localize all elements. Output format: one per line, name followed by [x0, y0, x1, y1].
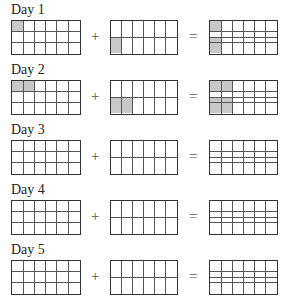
plus-sign: + [91, 208, 99, 224]
left-fraction-grid [11, 140, 81, 175]
grid-column-line [56, 261, 57, 294]
day-row: Day 5+= [0, 242, 284, 301]
grid-column-line [34, 141, 35, 174]
day-row: Day 4+= [0, 182, 284, 242]
grid-row-line [210, 31, 277, 32]
left-fraction-grid [11, 200, 81, 235]
grid-row-line [210, 277, 277, 278]
grid-row-line [210, 282, 277, 283]
shaded-region [111, 37, 122, 53]
left-fraction-grid [11, 260, 81, 295]
result-fraction-grid [209, 200, 278, 235]
grid-column-line [45, 21, 46, 54]
grid-column-line [23, 201, 24, 234]
grid-column-line [56, 141, 57, 174]
grid-column-line [34, 201, 35, 234]
plus-sign: + [91, 28, 99, 44]
grid-column-line [56, 21, 57, 54]
result-fraction-grid [209, 20, 278, 55]
day-row: Day 3+= [0, 122, 284, 182]
plus-sign: + [91, 268, 99, 284]
plus-sign: + [91, 148, 99, 164]
grid-row-line [12, 31, 80, 32]
day-label: Day 2 [11, 62, 45, 78]
grid-column-line [68, 141, 69, 174]
shaded-region [12, 21, 23, 32]
grid-column-line [45, 141, 46, 174]
equals-sign: = [189, 268, 197, 284]
middle-fraction-grid [110, 20, 178, 55]
middle-fraction-grid [110, 200, 178, 235]
grid-column-line [68, 81, 69, 114]
grid-row-line [210, 222, 277, 223]
grid-column-line [23, 21, 24, 54]
result-fraction-grid [209, 140, 278, 175]
left-fraction-grid [11, 20, 81, 55]
grid-column-line [56, 201, 57, 234]
grid-row-line [210, 37, 277, 38]
result-fraction-grid [209, 260, 278, 295]
grid-column-line [23, 141, 24, 174]
equals-sign: = [189, 88, 197, 104]
middle-fraction-grid [110, 80, 178, 115]
grid-column-line [34, 261, 35, 294]
shaded-region [210, 37, 221, 53]
grid-row-line [12, 102, 80, 103]
grid-row-line [12, 91, 80, 92]
grid-column-line [45, 261, 46, 294]
grid-column-line [56, 81, 57, 114]
shaded-region [210, 21, 221, 32]
grid-row-line [210, 271, 277, 272]
grid-row-line [12, 211, 80, 212]
grid-column-line [23, 81, 24, 114]
grid-row-line [210, 211, 277, 212]
grid-column-line [45, 201, 46, 234]
grid-column-line [68, 261, 69, 294]
day-row: Day 2+= [0, 62, 284, 122]
grid-row-line [111, 97, 177, 98]
grid-row-line [12, 162, 80, 163]
grid-column-line [23, 261, 24, 294]
grid-row-line [111, 37, 177, 38]
day-row: Day 1+= [0, 2, 284, 62]
middle-fraction-grid [110, 260, 178, 295]
grid-row-line [210, 162, 277, 163]
grid-row-line [12, 271, 80, 272]
day-label: Day 4 [11, 182, 45, 198]
grid-row-line [12, 42, 80, 43]
grid-row-line [210, 97, 277, 98]
grid-row-line [111, 157, 177, 158]
grid-column-line [45, 81, 46, 114]
grid-column-line [34, 21, 35, 54]
equals-sign: = [189, 148, 197, 164]
plus-sign: + [91, 88, 99, 104]
grid-row-line [210, 151, 277, 152]
grid-row-line [111, 277, 177, 278]
grid-column-line [68, 21, 69, 54]
grid-row-line [210, 42, 277, 43]
grid-column-line [34, 81, 35, 114]
day-label: Day 5 [11, 242, 45, 258]
grid-row-line [210, 91, 277, 92]
grid-row-line [12, 222, 80, 223]
grid-row-line [111, 217, 177, 218]
equals-sign: = [189, 28, 197, 44]
grid-column-line [68, 201, 69, 234]
day-label: Day 1 [11, 2, 45, 18]
grid-row-line [210, 157, 277, 158]
day-label: Day 3 [11, 122, 45, 138]
result-fraction-grid [209, 80, 278, 115]
grid-row-line [210, 102, 277, 103]
grid-row-line [12, 151, 80, 152]
grid-row-line [12, 282, 80, 283]
middle-fraction-grid [110, 140, 178, 175]
grid-row-line [210, 217, 277, 218]
left-fraction-grid [11, 80, 81, 115]
equals-sign: = [189, 208, 197, 224]
